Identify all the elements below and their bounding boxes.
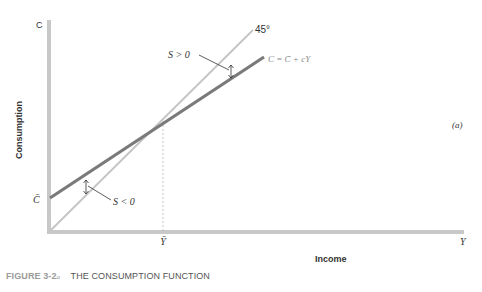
c-bar-label: C̄ (33, 194, 40, 205)
consumption-function-diagram: C Consumption C̄ Ȳ Y Income 45° C = C̄ +… (0, 0, 482, 292)
figure-caption: FIGURE 3-2a THE CONSUMPTION FUNCTION (6, 271, 210, 281)
panel-label: (a) (452, 120, 463, 130)
consumption-line (50, 57, 264, 198)
figure-sublabel: a (57, 273, 61, 281)
x-axis-symbol: Y (460, 236, 467, 247)
x-axis-label: Income (315, 254, 347, 264)
y-axis-symbol: C (36, 20, 43, 30)
saving-positive-label: S > 0 (168, 49, 190, 60)
forty-five-degree-label: 45° (255, 24, 270, 35)
figure-title: THE CONSUMPTION FUNCTION (71, 271, 210, 281)
saving-negative-label: S < 0 (113, 196, 135, 207)
consumption-equation-label: C = C̄ + cY (268, 54, 311, 64)
y-bar-label: Ȳ (160, 236, 167, 247)
figure-number: FIGURE 3-2a (6, 271, 60, 281)
figure-number-text: FIGURE 3-2 (6, 271, 57, 281)
y-axis-label: Consumption (14, 101, 24, 159)
